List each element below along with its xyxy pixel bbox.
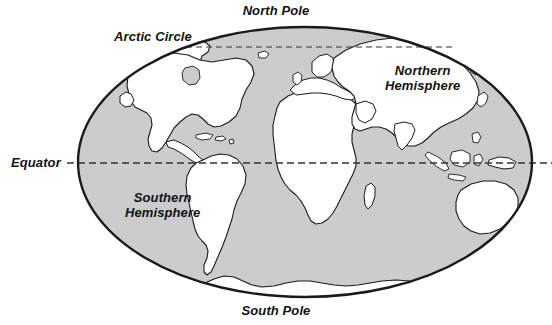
landmass-lesser-antilles	[229, 139, 234, 144]
landmass-new-zealand	[527, 216, 535, 227]
landmass-australia	[456, 181, 518, 234]
label-northern-hemisphere-line1: Northern	[385, 63, 460, 78]
label-arctic-circle: Arctic Circle	[114, 29, 192, 44]
label-north-pole: North Pole	[0, 3, 552, 18]
world-map-figure: North Pole South Pole Arctic Circle Equa…	[0, 0, 552, 325]
label-southern-hemisphere-line2: Hemisphere	[125, 205, 200, 220]
label-northern-hemisphere: Northern Hemisphere	[385, 63, 460, 94]
label-southern-hemisphere: Southern Hemisphere	[125, 190, 200, 221]
landmass-new-zealand-south	[522, 229, 530, 237]
label-equator: Equator	[11, 155, 61, 170]
world-map-svg	[0, 0, 552, 325]
label-south-pole: South Pole	[0, 303, 552, 318]
landmass-caribbean	[196, 133, 213, 140]
label-northern-hemisphere-line2: Hemisphere	[385, 78, 460, 93]
label-southern-hemisphere-line1: Southern	[125, 190, 200, 205]
